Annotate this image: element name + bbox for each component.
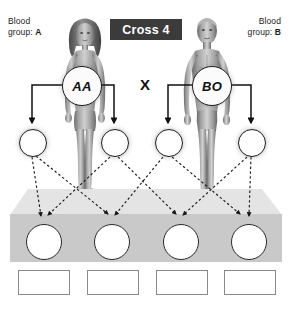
gamete-circle-2[interactable] bbox=[101, 129, 129, 157]
parent-genotype-left-text: AA bbox=[72, 79, 91, 94]
answer-box-2[interactable] bbox=[87, 270, 139, 295]
offspring-circle-3[interactable] bbox=[163, 224, 199, 260]
blood-group-left-value: A bbox=[35, 27, 41, 37]
offspring-circle-4[interactable] bbox=[231, 224, 267, 260]
blood-group-right-line1: Blood bbox=[248, 16, 281, 27]
blood-group-left-line2: group: A bbox=[8, 27, 41, 38]
blood-group-right-line2: group: B bbox=[248, 27, 281, 38]
cross-title-text: Cross 4 bbox=[122, 23, 169, 37]
blood-group-label-right: Blood group: B bbox=[248, 16, 281, 38]
cross-title-plaque: Cross 4 bbox=[110, 19, 182, 40]
parent-genotype-right: BO bbox=[192, 66, 232, 106]
offspring-circle-1[interactable] bbox=[26, 224, 62, 260]
parent-genotype-left: AA bbox=[62, 66, 102, 106]
answer-box-4[interactable] bbox=[224, 270, 276, 295]
blood-group-left-prefix: group: bbox=[8, 27, 35, 37]
parent-genotype-right-text: BO bbox=[202, 79, 222, 94]
answer-box-3[interactable] bbox=[156, 270, 208, 295]
blood-group-right-prefix: group: bbox=[248, 27, 275, 37]
answer-box-1[interactable] bbox=[18, 270, 70, 295]
offspring-circle-2[interactable] bbox=[94, 224, 130, 260]
blood-group-right-value: B bbox=[275, 27, 281, 37]
connector-lines bbox=[0, 0, 289, 312]
cross-multiply-symbol: X bbox=[136, 76, 154, 93]
blood-group-label-left: Blood group: A bbox=[8, 16, 41, 38]
platform-top-surface bbox=[0, 189, 289, 215]
gamete-circle-1[interactable] bbox=[19, 129, 47, 157]
genetics-cross-diagram: Blood group: A Blood group: B Cross 4 X … bbox=[0, 0, 289, 312]
gamete-circle-3[interactable] bbox=[155, 129, 183, 157]
blood-group-left-line1: Blood bbox=[8, 16, 41, 27]
gamete-circle-4[interactable] bbox=[238, 129, 266, 157]
